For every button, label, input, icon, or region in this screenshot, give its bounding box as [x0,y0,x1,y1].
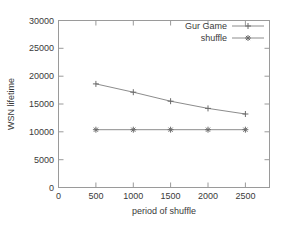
x-axis-label: period of shuffle [132,206,196,216]
legend-label-gur-game: Gur Game [185,21,227,31]
y-tick-label: 25000 [29,43,54,53]
y-tick-label: 30000 [29,16,54,26]
x-tick-label: 1500 [161,191,181,201]
x-tick-label: 0 [56,191,61,201]
y-tick-label: 15000 [29,99,54,109]
y-tick-label: 20000 [29,71,54,81]
x-tick-label: 1000 [123,191,143,201]
chart-figure: 0 5000 10000 15000 20000 25000 30000 0 5… [0,0,287,229]
y-tick-label: 10000 [29,127,54,137]
x-tick-label: 2000 [198,191,218,201]
x-tick-label: 2500 [235,191,255,201]
legend-label-shuffle: shuffle [201,33,227,43]
y-tick-label: 5000 [34,155,54,165]
y-axis-label: WSN lifetime [6,78,16,130]
y-tick-label: 0 [49,183,54,193]
x-tick-label: 500 [88,191,103,201]
chart-svg: 0 5000 10000 15000 20000 25000 30000 0 5… [0,0,287,229]
